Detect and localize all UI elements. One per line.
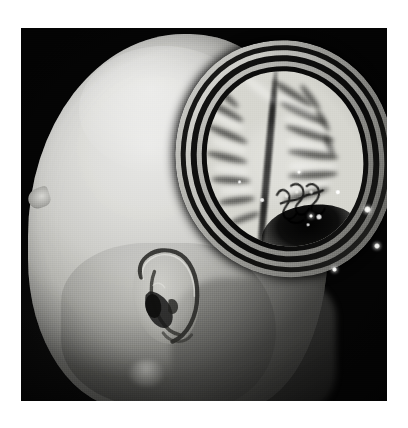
bright-speck	[306, 223, 309, 226]
fiducial-marker	[374, 243, 380, 249]
fiducial-marker	[297, 170, 301, 174]
sulcus	[219, 195, 255, 206]
bright-speck	[316, 214, 322, 220]
fiducial-marker	[364, 206, 371, 213]
ear-pinna	[117, 235, 218, 358]
gyrus	[219, 186, 254, 196]
bright-speck	[336, 190, 341, 195]
figure-caption	[0, 0, 1, 1]
figure-container	[0, 0, 408, 428]
chin-contour	[129, 360, 163, 386]
fiducial-marker	[332, 267, 337, 272]
sulcus	[230, 210, 261, 226]
fiducial-marker	[309, 214, 313, 218]
mri-image-panel	[21, 28, 387, 401]
